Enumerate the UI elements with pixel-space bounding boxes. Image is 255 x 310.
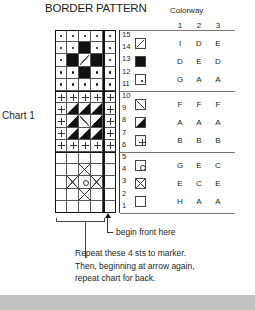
cross-icon xyxy=(135,178,146,189)
chart-cell-dot xyxy=(104,67,116,79)
row-number: 7 xyxy=(122,128,134,137)
row-number: 15 xyxy=(122,30,134,39)
colorway-value: A xyxy=(193,197,205,206)
colorway-value: E xyxy=(212,179,224,188)
chart-cell-cross xyxy=(79,189,91,201)
row-number: 8 xyxy=(122,115,134,124)
chart-cell-plus xyxy=(55,103,67,115)
note-line: Repeat these 4 sts to marker. xyxy=(75,247,255,260)
row-number: 12 xyxy=(122,67,134,76)
row-number: 6 xyxy=(122,140,134,149)
row-number-divider xyxy=(119,30,120,213)
chart-cell-empty xyxy=(91,201,103,213)
footer-band xyxy=(0,295,255,310)
chart-cell-empty xyxy=(55,176,67,188)
chart-label: Chart 1 xyxy=(2,110,35,121)
row-number: 9 xyxy=(122,103,134,112)
chart-cell-dot xyxy=(104,54,116,66)
chart-cell-empty xyxy=(91,189,103,201)
colorway-col-3: 3 xyxy=(212,21,224,30)
chart-cell-dot xyxy=(67,67,79,79)
chart-cell-plus xyxy=(67,91,79,103)
chart-cell-plus xyxy=(104,103,116,115)
chart-cell-tri xyxy=(91,115,103,127)
chart-cell-dot xyxy=(91,30,103,42)
chart-cell-dot xyxy=(79,30,91,42)
chart-cell-plus xyxy=(91,140,103,152)
row-number: 4 xyxy=(122,164,134,173)
chart-cell-plus xyxy=(91,91,103,103)
chart-cell-plus xyxy=(79,140,91,152)
chart-cell-plus xyxy=(104,115,116,127)
chart-cell-plus xyxy=(79,91,91,103)
chart-cell-empty xyxy=(79,201,91,213)
colorway-col-2: 2 xyxy=(193,21,205,30)
legend-header-rule xyxy=(120,30,235,31)
chart-cell-plus xyxy=(67,140,79,152)
chart-cell-empty xyxy=(104,164,116,176)
row-number: 2 xyxy=(122,189,134,198)
chart-cell-cross xyxy=(67,176,79,188)
row-number: 5 xyxy=(122,152,134,161)
section-divider xyxy=(55,91,116,92)
chart-cell-dot xyxy=(79,79,91,91)
begin-arrow-stem xyxy=(107,217,108,233)
note-line: repeat chart for back. xyxy=(75,272,255,285)
legend-bottom-rule xyxy=(120,213,235,214)
chart-cell-empty xyxy=(55,152,67,164)
colorway-value: E xyxy=(212,39,224,48)
chart-cell-empty xyxy=(104,189,116,201)
legend-section-rule xyxy=(120,91,235,92)
chart-cell-plus xyxy=(55,140,67,152)
colorway-value: D xyxy=(174,57,186,66)
chart-cell-black xyxy=(91,54,103,66)
colorway-label: Colorway xyxy=(170,6,203,15)
chart-cell-dot xyxy=(55,42,67,54)
chart-cell-dot xyxy=(104,30,116,42)
chart-cell-dot xyxy=(67,42,79,54)
page-title: BORDER PATTERN xyxy=(45,2,147,14)
colorway-value: B xyxy=(212,136,224,145)
chart-cell-empty xyxy=(67,164,79,176)
chart-cell-plus xyxy=(55,128,67,140)
chart-cell-dot xyxy=(104,79,116,91)
colorway-value: C xyxy=(193,179,205,188)
chart-cell-dot xyxy=(55,30,67,42)
chart-cell-empty xyxy=(67,152,79,164)
colorway-value: D xyxy=(193,39,205,48)
chart-cell-empty xyxy=(91,164,103,176)
circle-icon xyxy=(135,160,146,171)
colorway-value: B xyxy=(193,136,205,145)
colorway-value: E xyxy=(193,161,205,170)
note-line: Then, beginning at arrow again, xyxy=(75,260,255,273)
colorway-value: A xyxy=(212,75,224,84)
row-number: 3 xyxy=(122,176,134,185)
diagonal-back-icon xyxy=(135,38,146,49)
colorway-value: E xyxy=(174,179,186,188)
chart-cell-dot xyxy=(55,54,67,66)
chart-cell-cross xyxy=(91,176,103,188)
chart-cell-plus xyxy=(104,91,116,103)
colorway-value: A xyxy=(174,118,186,127)
chart-cell-diag-back xyxy=(79,54,91,66)
chart-cell-tri xyxy=(67,103,79,115)
chart-cell-tri xyxy=(67,128,79,140)
chart-cell-plus xyxy=(104,128,116,140)
colorway-value: C xyxy=(212,161,224,170)
section-divider xyxy=(55,152,116,153)
chart-cell-tri xyxy=(91,128,103,140)
chart-cell-empty xyxy=(55,189,67,201)
colorway-value: F xyxy=(212,100,224,109)
colorway-value: A xyxy=(212,118,224,127)
chart-cell-black xyxy=(79,42,91,54)
colorway-value: B xyxy=(174,136,186,145)
diagonal-forward-icon xyxy=(135,99,146,110)
colorway-value: F xyxy=(174,100,186,109)
chart-cell-dot xyxy=(67,30,79,42)
chart-cell-empty xyxy=(104,152,116,164)
chart-cell-dot xyxy=(67,79,79,91)
row-number: 1 xyxy=(122,201,134,210)
row-number: 13 xyxy=(122,54,134,63)
colorway-value: H xyxy=(174,197,186,206)
chart-cell-cross xyxy=(79,164,91,176)
